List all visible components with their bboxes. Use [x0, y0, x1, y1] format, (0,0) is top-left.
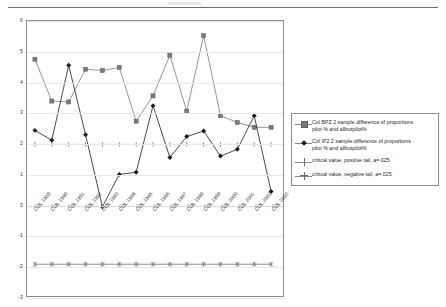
data-point — [218, 154, 223, 159]
gridline--3 — [27, 298, 283, 299]
data-point — [168, 53, 172, 57]
gridline-6 — [27, 21, 283, 22]
data-point — [151, 94, 155, 98]
data-point — [269, 189, 274, 194]
series-0 — [33, 34, 273, 130]
y-tick-label-3: 3 — [20, 111, 23, 116]
legend-item-critical-negative[interactable]: critical value, negative tail, a=.025 — [295, 171, 434, 180]
legend-label-bpz-line1: Col BPZ 2 sample difference of proportio… — [312, 119, 413, 125]
data-point — [33, 57, 37, 61]
data-point — [202, 34, 206, 38]
square-marker-icon — [295, 120, 312, 128]
star-marker-icon — [295, 172, 312, 180]
series-3 — [33, 262, 274, 267]
x-tick-11 — [222, 204, 223, 208]
header-divider — [8, 7, 438, 8]
x-tick-14 — [273, 204, 274, 208]
data-point — [83, 67, 87, 71]
data-point — [235, 147, 240, 152]
y-tick-label-0: 0 — [20, 203, 23, 208]
legend-label-ip2-line1: Col IP2 2 sample difference of proportio… — [312, 138, 411, 144]
data-point — [67, 100, 71, 104]
legend-label-critical-positive: critical value, positive tail, a=.025 — [312, 157, 434, 164]
legend-item-critical-positive[interactable]: critical value, positive tail, a=.025 — [295, 157, 434, 166]
plus-marker-icon — [295, 158, 312, 166]
gridline-4 — [27, 83, 283, 84]
data-point — [117, 65, 121, 69]
x-tick-2 — [69, 204, 70, 208]
gridline-1 — [27, 175, 283, 176]
legend-label-critical-negative: critical value, negative tail, a=.025 — [312, 171, 434, 178]
legend-label-bpz-line2: pilot % and allbutpilot% — [312, 126, 367, 132]
data-point — [201, 129, 206, 134]
y-tick-label-4: 4 — [20, 80, 23, 85]
x-tick-4 — [103, 204, 104, 208]
data-point — [269, 125, 273, 129]
diamond-marker-icon — [295, 139, 312, 147]
gridline-2 — [27, 144, 283, 145]
series-layer — [27, 21, 283, 296]
y-tick-label-6: 6 — [20, 18, 23, 23]
data-point — [32, 128, 37, 133]
page-artifact — [168, 2, 202, 5]
x-tick-9 — [188, 204, 189, 208]
y-tick-label--3: -3 — [18, 295, 23, 300]
x-tick-3 — [86, 204, 87, 208]
x-tick-5 — [120, 204, 121, 208]
data-point — [235, 120, 239, 124]
data-point — [100, 68, 104, 72]
gridline-3 — [27, 113, 283, 114]
x-tick-12 — [239, 204, 240, 208]
gridline-0 — [27, 206, 283, 207]
chart-legend: Col BPZ 2 sample difference of proportio… — [291, 113, 439, 186]
data-point — [83, 132, 88, 137]
data-point — [151, 103, 156, 108]
data-point — [66, 63, 71, 68]
plot-area: 6543210-1-2-3 — [26, 20, 284, 297]
series-line-1 — [35, 65, 271, 206]
legend-label-ip2-line2: pilot % and allbutpilot% — [312, 145, 367, 151]
x-tick-6 — [137, 204, 138, 208]
x-tick-13 — [256, 204, 257, 208]
chart-page: 6543210-1-2-3 COL 1989COL 1990COL 1991CO… — [0, 0, 446, 307]
y-tick-label-2: 2 — [20, 142, 23, 147]
gridline--2 — [27, 267, 283, 268]
data-point — [49, 138, 54, 143]
y-tick-label-1: 1 — [20, 172, 23, 177]
series-1 — [32, 63, 273, 209]
data-point — [50, 99, 54, 103]
data-point — [252, 125, 256, 129]
data-point — [134, 119, 138, 123]
x-tick-8 — [171, 204, 172, 208]
y-tick-label-5: 5 — [20, 49, 23, 54]
legend-item-bpz[interactable]: Col BPZ 2 sample difference of proportio… — [295, 119, 434, 133]
legend-label-bpz: Col BPZ 2 sample difference of proportio… — [312, 119, 434, 133]
legend-item-ip2[interactable]: Col IP2 2 sample difference of proportio… — [295, 138, 434, 152]
x-tick-1 — [52, 204, 53, 208]
gridline-5 — [27, 52, 283, 53]
y-tick-label--2: -2 — [18, 265, 23, 270]
legend-label-ip2: Col IP2 2 sample difference of proportio… — [312, 138, 434, 152]
x-tick-10 — [205, 204, 206, 208]
x-tick-7 — [154, 204, 155, 208]
gridline--1 — [27, 236, 283, 237]
y-tick-label--1: -1 — [18, 234, 23, 239]
x-tick-0 — [35, 204, 36, 208]
